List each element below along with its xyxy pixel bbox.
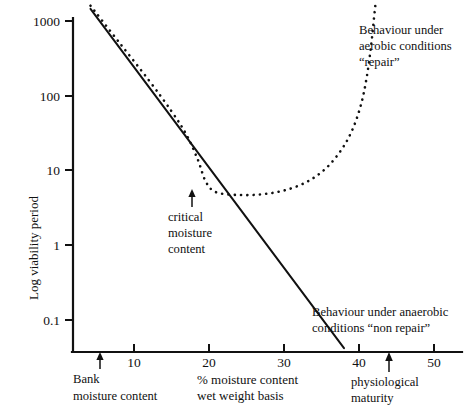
x-tick-label-10: 10 xyxy=(114,354,154,371)
x-tick-label-20: 20 xyxy=(189,354,229,371)
annotation-anaerobic-line2: conditions “non repair” xyxy=(312,320,430,336)
annotation-aerobic-line2: aerobic conditions xyxy=(359,38,452,54)
y-tick-label-0-1: 0.1 xyxy=(8,312,60,329)
y-axis-ticks xyxy=(65,21,73,320)
annotation-critical-line1: critical xyxy=(168,209,203,225)
annotation-bank-line1: Bank xyxy=(73,371,100,387)
chart-figure: 1000 100 10 1 0.1 10 20 30 40 50 Log via… xyxy=(0,0,470,420)
annotation-physiological-line2: maturity xyxy=(351,390,394,406)
bank-moisture-arrow xyxy=(96,352,103,369)
critical-moisture-arrow xyxy=(188,189,195,207)
x-axis-ticks xyxy=(134,344,434,352)
annotation-anaerobic-line1: Behaviour under anaerobic xyxy=(312,304,448,320)
annotation-aerobic-line1: Behaviour under xyxy=(359,22,443,38)
series-anaerobic-non-repair xyxy=(91,9,345,348)
x-tick-label-50: 50 xyxy=(414,354,454,371)
annotation-physiological-line1: physiological xyxy=(351,374,419,390)
annotation-bank-line2: moisture content xyxy=(73,388,157,404)
annotation-critical-line3: content xyxy=(168,241,205,257)
annotation-aerobic-line3: “repair” xyxy=(359,54,400,70)
x-tick-label-40: 40 xyxy=(339,354,379,371)
x-axis-title-line2: wet weight basis xyxy=(197,388,284,405)
x-tick-label-30: 30 xyxy=(264,354,304,371)
y-tick-label-1000: 1000 xyxy=(8,13,60,30)
y-tick-label-100: 100 xyxy=(8,88,60,105)
physiological-maturity-arrow xyxy=(385,352,393,372)
y-axis-title: Log viability period xyxy=(26,196,43,300)
series-aerobic-repair xyxy=(91,4,376,195)
y-tick-label-10: 10 xyxy=(8,162,60,179)
annotation-critical-line2: moisture xyxy=(168,225,212,241)
x-axis-title-line1: % moisture content xyxy=(197,372,298,389)
